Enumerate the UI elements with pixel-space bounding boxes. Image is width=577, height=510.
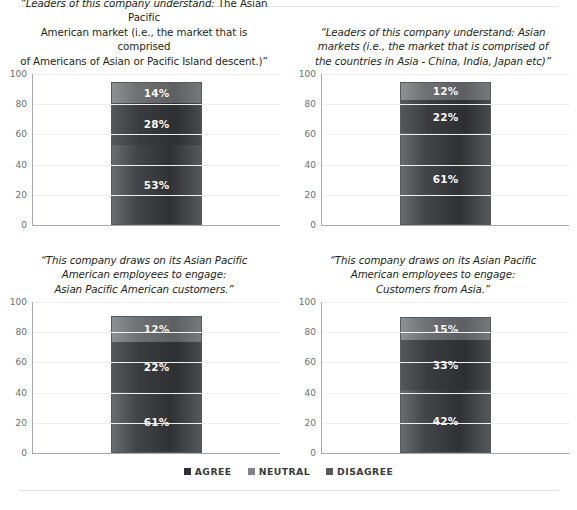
- bar-segment-agree[interactable]: 61%: [401, 133, 490, 224]
- chart-panel-bottom-right: “This company draws on its Asian Pacific…: [289, 238, 577, 466]
- chart-title-line: American market (i.e., the market that i…: [16, 25, 272, 54]
- stacked-bar[interactable]: 15%33%42%: [400, 317, 491, 453]
- bar-segment-label: 53%: [144, 179, 170, 191]
- chart-title-line: “Leaders of this company understand: The…: [16, 0, 272, 25]
- chart-grid: “Leaders of this company understand: The…: [0, 10, 577, 465]
- gridline: [33, 423, 280, 424]
- legend-swatch-icon: [184, 468, 191, 475]
- chart-title-line: the countries in Asia - China, India, Ja…: [305, 54, 561, 68]
- y-axis-tick-label: 80: [16, 99, 27, 109]
- gridline: [33, 393, 280, 394]
- x-axis-line: [32, 225, 280, 226]
- chart-title-line: Customers from Asia.”: [305, 282, 561, 296]
- y-axis-bottom-right: 100806040200: [289, 302, 319, 454]
- gridline: [322, 104, 569, 105]
- legend-label: NEUTRAL: [259, 466, 310, 477]
- y-axis-tick-label: 80: [305, 99, 316, 109]
- bar-segment-agree[interactable]: 42%: [401, 390, 490, 452]
- x-axis-line: [321, 453, 569, 454]
- bar-segment-disagree[interactable]: 12%: [401, 83, 490, 101]
- axes-top-right: 12%22%61%: [321, 74, 569, 226]
- chart-title-line: American employees to engage:: [305, 267, 561, 281]
- y-axis-tick-label: 20: [16, 418, 27, 428]
- title-emphasis: “This company draws on its Asian Pacific: [330, 254, 537, 266]
- y-axis-tick-label: 100: [10, 297, 27, 307]
- gridline: [322, 134, 569, 135]
- gridline: [322, 423, 569, 424]
- y-axis-line: [32, 74, 33, 226]
- y-axis-tick-label: 100: [10, 69, 27, 79]
- y-axis-tick-label: 0: [310, 448, 316, 458]
- gridline: [322, 195, 569, 196]
- legend-swatch-icon: [326, 468, 333, 475]
- bar-segment-disagree[interactable]: 12%: [112, 317, 201, 342]
- y-axis-tick-label: 80: [305, 327, 316, 337]
- chart-title-top-left: “Leaders of this company understand: The…: [0, 10, 288, 68]
- legend-item-agree[interactable]: AGREE: [184, 466, 232, 477]
- y-axis-tick-label: 80: [16, 327, 27, 337]
- axes-top-left: 14%28%53%: [32, 74, 280, 226]
- bar-segment-label: 12%: [433, 85, 459, 97]
- bar-segment-disagree[interactable]: 14%: [112, 83, 201, 104]
- chart-title-top-right: “Leaders of this company understand: Asi…: [289, 10, 577, 68]
- gridline: [322, 302, 569, 303]
- gridline: [33, 104, 280, 105]
- stacked-bar[interactable]: 14%28%53%: [111, 82, 202, 225]
- y-axis-tick-label: 100: [299, 297, 316, 307]
- y-axis-tick-label: 60: [305, 357, 316, 367]
- bar-segment-neutral[interactable]: 33%: [401, 340, 490, 389]
- bar-segment-disagree[interactable]: 15%: [401, 318, 490, 340]
- y-axis-tick-label: 0: [21, 220, 27, 230]
- chart-legend: AGREENEUTRALDISAGREE: [0, 466, 577, 477]
- bar-segment-label: 15%: [433, 323, 459, 335]
- plot-area-top-left: 100806040200 14%28%53%: [0, 74, 288, 234]
- bar-segment-label: 28%: [144, 118, 170, 130]
- plot-area-top-right: 100806040200 12%22%61%: [289, 74, 577, 234]
- bar-segment-neutral[interactable]: 22%: [112, 342, 201, 393]
- bar-segment-agree[interactable]: 53%: [112, 145, 201, 224]
- y-axis-line: [321, 302, 322, 454]
- title-emphasis: the countries in Asia - China, India, Ja…: [315, 55, 551, 67]
- y-axis-tick-label: 40: [16, 160, 27, 170]
- y-axis-line: [321, 74, 322, 226]
- bar-segment-neutral[interactable]: 28%: [112, 103, 201, 145]
- legend-label: AGREE: [195, 466, 232, 477]
- plot-area-bottom-right: 100806040200 15%33%42%: [289, 302, 577, 462]
- x-axis-line: [321, 225, 569, 226]
- stacked-bar[interactable]: 12%22%61%: [400, 82, 491, 225]
- chart-title-line: “Leaders of this company understand: Asi…: [305, 25, 561, 39]
- gridline: [322, 74, 569, 75]
- page-bottom-rule: [18, 490, 559, 491]
- y-axis-bottom-left: 100806040200: [0, 302, 30, 454]
- gridline: [33, 165, 280, 166]
- bar-segment-neutral[interactable]: 22%: [401, 100, 490, 133]
- gridline: [322, 362, 569, 363]
- chart-title-bottom-left: “This company draws on its Asian Pacific…: [0, 238, 288, 296]
- stacked-bar[interactable]: 12%22%61%: [111, 316, 202, 453]
- x-axis-line: [32, 453, 280, 454]
- gridline: [33, 362, 280, 363]
- bar-segment-label: 61%: [433, 173, 459, 185]
- legend-item-disagree[interactable]: DISAGREE: [326, 466, 393, 477]
- y-axis-tick-label: 40: [305, 388, 316, 398]
- y-axis-tick-label: 20: [305, 190, 316, 200]
- gridline: [322, 332, 569, 333]
- bar-segment-label: 22%: [433, 111, 459, 123]
- axes-bottom-right: 15%33%42%: [321, 302, 569, 454]
- title-emphasis: “Leaders of this company understand: Asi…: [320, 26, 545, 38]
- y-axis-tick-label: 40: [16, 388, 27, 398]
- gridline: [33, 74, 280, 75]
- legend-item-neutral[interactable]: NEUTRAL: [248, 466, 310, 477]
- gridline: [33, 195, 280, 196]
- title-emphasis: Customers from Asia.”: [376, 283, 490, 295]
- y-axis-tick-label: 0: [310, 220, 316, 230]
- y-axis-tick-label: 40: [305, 160, 316, 170]
- y-axis-tick-label: 20: [16, 190, 27, 200]
- chart-title-line: Asian Pacific American customers.”: [16, 282, 272, 296]
- y-axis-top-right: 100806040200: [289, 74, 319, 226]
- gridline: [33, 332, 280, 333]
- chart-title-line: markets (i.e., the market that is compri…: [305, 39, 561, 53]
- chart-panel-top-right: “Leaders of this company understand: Asi…: [289, 10, 577, 238]
- chart-title-line: “This company draws on its Asian Pacific: [16, 253, 272, 267]
- legend-label: DISAGREE: [337, 466, 393, 477]
